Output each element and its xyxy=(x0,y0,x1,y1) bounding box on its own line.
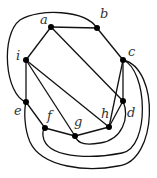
edge-i-h xyxy=(26,60,109,127)
vertex-a xyxy=(48,24,54,30)
edge-e-f xyxy=(26,102,45,128)
edge-i-g xyxy=(26,60,75,136)
vertex-label-a: a xyxy=(40,12,48,27)
vertex-b xyxy=(94,25,100,31)
vertex-label-d: d xyxy=(127,105,135,120)
graph-diagram: abcdefghi xyxy=(0,0,157,178)
edge-c-h xyxy=(109,60,123,127)
vertex-h xyxy=(106,124,112,130)
vertex-e xyxy=(23,99,29,105)
vertex-label-e: e xyxy=(14,103,22,118)
edge-a-b xyxy=(51,27,97,28)
vertex-label-i: i xyxy=(16,48,20,63)
vertex-f xyxy=(42,125,48,131)
vertex-label-h: h xyxy=(101,106,109,121)
edge-a-i xyxy=(26,27,51,60)
vertex-d xyxy=(120,98,126,104)
vertex-label-f: f xyxy=(46,108,54,123)
vertex-label-g: g xyxy=(74,114,82,129)
vertex-g xyxy=(72,133,78,139)
edge-a-d xyxy=(51,27,123,101)
edge-b-c xyxy=(97,28,123,60)
vertex-label-c: c xyxy=(128,44,136,59)
vertex-label-b: b xyxy=(100,6,108,21)
vertex-c xyxy=(120,57,126,63)
vertex-i xyxy=(23,57,29,63)
